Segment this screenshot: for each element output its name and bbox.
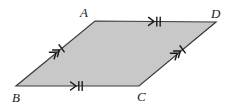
vertex-label-d: D bbox=[210, 6, 221, 21]
vertex-label-a: A bbox=[79, 5, 88, 20]
geometry-figure-container: ADCB bbox=[0, 0, 232, 106]
vertex-label-b: B bbox=[12, 90, 20, 105]
vertex-label-c: C bbox=[137, 89, 146, 104]
parallelogram-diagram: ADCB bbox=[0, 0, 232, 106]
